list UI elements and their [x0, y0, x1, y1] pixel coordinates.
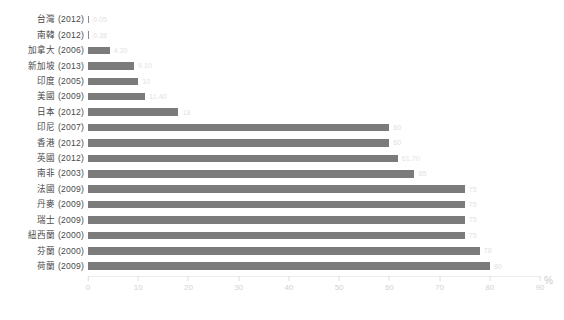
axis-tick: 0 — [86, 276, 90, 292]
bar-track: 75 — [88, 197, 540, 212]
bar[interactable] — [88, 47, 110, 55]
axis-tick-mark — [138, 276, 139, 281]
bar-value-label: 10 — [142, 78, 150, 85]
bar[interactable] — [88, 262, 490, 270]
bar-value-label: 9.10 — [138, 62, 152, 69]
bar-track: 60 — [88, 135, 540, 150]
axis-tick: 50 — [335, 276, 344, 292]
axis-tick-mark — [87, 276, 88, 281]
axis-tick: 40 — [284, 276, 293, 292]
bar[interactable] — [88, 78, 138, 86]
bar-track: 11.40 — [88, 89, 540, 104]
bar-track: 4.30 — [88, 43, 540, 58]
bar-row: 丹麥 (2009)75 — [88, 197, 540, 212]
bar-value-label: 60 — [393, 139, 401, 146]
x-axis: 0102030405060708090 — [88, 276, 540, 306]
bar[interactable] — [88, 232, 465, 240]
axis-tick-mark — [238, 276, 239, 281]
bar[interactable] — [88, 247, 480, 255]
category-label: 丹麥 (2009) — [37, 200, 84, 209]
bar[interactable] — [88, 108, 178, 116]
axis-tick-mark — [288, 276, 289, 281]
axis-tick-label: 80 — [485, 284, 494, 292]
bar-row: 美國 (2009)11.40 — [88, 89, 540, 104]
bar[interactable] — [88, 185, 465, 193]
bar-track: 10 — [88, 74, 540, 89]
bar-row: 香港 (2012)60 — [88, 135, 540, 150]
category-label: 南韓 (2012) — [37, 31, 84, 40]
bar-value-label: 18 — [182, 109, 190, 116]
bar[interactable] — [88, 62, 134, 70]
bar-chart: 台灣 (2012)0.05南韓 (2012)0.38加拿大 (2006)4.30… — [0, 0, 564, 320]
bar-value-label: 11.40 — [149, 93, 166, 100]
bar-value-label: 0.38 — [93, 32, 107, 39]
bar[interactable] — [88, 139, 389, 147]
axis-tick-mark — [489, 276, 490, 281]
bar[interactable] — [88, 93, 145, 101]
category-label: 日本 (2012) — [37, 108, 84, 117]
bar-track: 65 — [88, 166, 540, 181]
bar-track: 75 — [88, 212, 540, 227]
axis-tick-label: 50 — [335, 284, 344, 292]
bar-row: 荷蘭 (2009)80 — [88, 259, 540, 274]
bar-value-label: 4.30 — [114, 47, 128, 54]
axis-tick: 70 — [435, 276, 444, 292]
bar[interactable] — [88, 170, 414, 178]
category-label: 美國 (2009) — [37, 92, 84, 101]
bar-track: 75 — [88, 228, 540, 243]
bar-track: 75 — [88, 181, 540, 196]
bar-value-label: 75 — [469, 232, 477, 239]
bar-track: 61.70 — [88, 151, 540, 166]
bar-rows: 台灣 (2012)0.05南韓 (2012)0.38加拿大 (2006)4.30… — [88, 12, 540, 274]
bar[interactable] — [88, 16, 89, 24]
axis-tick-label: 70 — [435, 284, 444, 292]
bar-track: 0.05 — [88, 12, 540, 27]
axis-tick-mark — [439, 276, 440, 281]
category-label: 台灣 (2012) — [37, 15, 84, 24]
bar[interactable] — [88, 124, 389, 132]
bar[interactable] — [88, 216, 465, 224]
axis-tick: 80 — [485, 276, 494, 292]
bar-row: 加拿大 (2006)4.30 — [88, 43, 540, 58]
bar-track: 0.38 — [88, 27, 540, 42]
bar-row: 南非 (2003)65 — [88, 166, 540, 181]
axis-tick: 30 — [234, 276, 243, 292]
axis-tick-mark — [339, 276, 340, 281]
bar-row: 芬蘭 (2000)78 — [88, 243, 540, 258]
axis-tick-mark — [389, 276, 390, 281]
bar[interactable] — [88, 155, 398, 163]
axis-unit-label: % — [544, 276, 553, 286]
bar-track: 9.10 — [88, 58, 540, 73]
bar-value-label: 75 — [469, 216, 477, 223]
category-label: 印度 (2005) — [37, 77, 84, 86]
axis-tick-label: 0 — [86, 284, 90, 292]
category-label: 新加坡 (2013) — [28, 62, 84, 71]
bar-track: 80 — [88, 259, 540, 274]
bar-row: 新加坡 (2013)9.10 — [88, 58, 540, 73]
category-label: 印尼 (2007) — [37, 123, 84, 132]
category-label: 英國 (2012) — [37, 154, 84, 163]
axis-tick-label: 30 — [234, 284, 243, 292]
plot-area: 台灣 (2012)0.05南韓 (2012)0.38加拿大 (2006)4.30… — [88, 12, 540, 274]
category-label: 芬蘭 (2000) — [37, 247, 84, 256]
bar-row: 印尼 (2007)60 — [88, 120, 540, 135]
bar-row: 台灣 (2012)0.05 — [88, 12, 540, 27]
bar-value-label: 61.70 — [402, 155, 420, 162]
axis-tick-mark — [188, 276, 189, 281]
bar-value-label: 75 — [469, 186, 477, 193]
bar[interactable] — [88, 31, 89, 39]
category-label: 紐西蘭 (2000) — [28, 231, 84, 240]
bar-value-label: 0.05 — [93, 16, 107, 23]
category-label: 南非 (2003) — [37, 169, 84, 178]
category-label: 香港 (2012) — [37, 139, 84, 148]
bar-track: 78 — [88, 243, 540, 258]
category-label: 瑞士 (2009) — [37, 216, 84, 225]
axis-tick: 10 — [134, 276, 143, 292]
category-label: 加拿大 (2006) — [28, 46, 84, 55]
category-label: 法國 (2009) — [37, 185, 84, 194]
bar[interactable] — [88, 201, 465, 209]
bar-row: 印度 (2005)10 — [88, 74, 540, 89]
bar-row: 瑞士 (2009)75 — [88, 212, 540, 227]
axis-tick-label: 10 — [134, 284, 143, 292]
axis-tick: 20 — [184, 276, 193, 292]
